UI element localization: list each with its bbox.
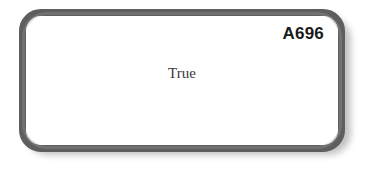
card-body: True [26, 64, 338, 82]
card-body-text: True [168, 65, 196, 81]
card-id-label: A696 [283, 25, 324, 42]
rounded-card: A696 True [19, 9, 345, 152]
card-inner-surface: A696 True [26, 16, 338, 145]
